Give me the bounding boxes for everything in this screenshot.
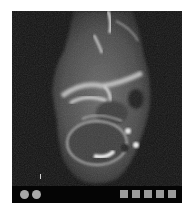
- tool-square-button-4[interactable]: [156, 190, 164, 198]
- mri-image[interactable]: [12, 11, 182, 186]
- nav-circle-button-1[interactable]: [20, 190, 29, 199]
- tool-square-button-5[interactable]: [168, 190, 176, 198]
- nav-circle-button-2[interactable]: [32, 190, 41, 199]
- viewer-toolbar: [12, 186, 182, 203]
- tool-square-button-2[interactable]: [132, 190, 140, 198]
- tool-square-button-1[interactable]: [120, 190, 128, 198]
- tool-square-button-3[interactable]: [144, 190, 152, 198]
- image-viewer: [12, 11, 182, 203]
- mri-slice-render: [12, 11, 182, 186]
